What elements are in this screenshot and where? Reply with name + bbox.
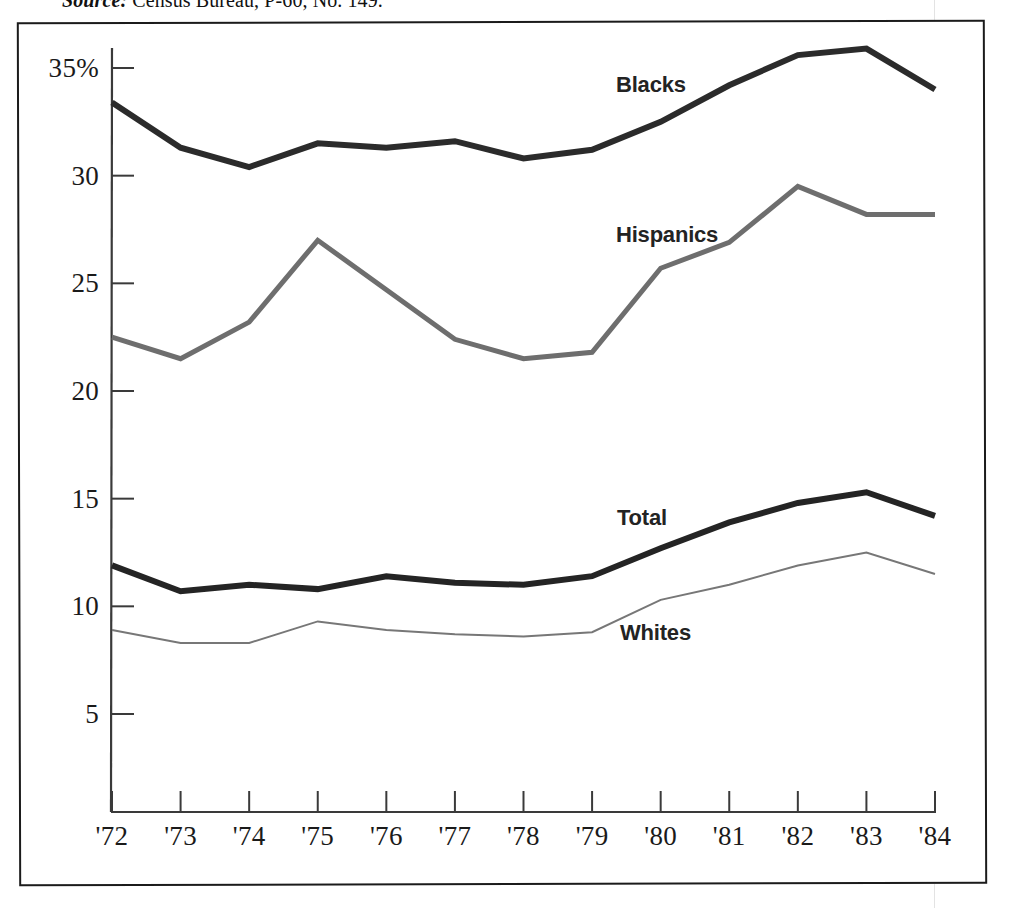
x-tick-label: '80: [626, 821, 696, 852]
chart-canvas: [0, 0, 1012, 908]
series-label-whites: Whites: [620, 620, 691, 646]
y-tick-label: 35%: [19, 53, 99, 84]
x-tick-label: '74: [214, 821, 284, 852]
y-axis-line: [111, 48, 112, 812]
x-tick-label: '84: [900, 821, 970, 852]
x-tick-label: '78: [489, 821, 559, 852]
series-label-blacks: Blacks: [616, 72, 686, 98]
x-tick-label: '76: [351, 821, 421, 852]
x-tick-label: '72: [77, 821, 147, 852]
x-tick-label: '73: [146, 821, 216, 852]
x-tick-label: '83: [831, 821, 901, 852]
series-line-blacks: [112, 49, 935, 167]
x-tick-label: '79: [557, 821, 627, 852]
series-label-total: Total: [617, 505, 667, 531]
line-chart: 35%30252015105 '72'73'74'75'76'77'78'79'…: [0, 0, 1012, 908]
series-label-hispanics: Hispanics: [616, 222, 718, 248]
y-tick-label: 25: [19, 268, 99, 299]
y-tick-label: 30: [19, 160, 99, 191]
x-tick-label: '77: [420, 821, 490, 852]
y-tick-label: 15: [19, 483, 99, 514]
series-line-whites: [112, 553, 935, 643]
y-tick-label: 5: [19, 699, 99, 730]
y-tick-label: 10: [19, 591, 99, 622]
x-tick-label: '82: [763, 821, 833, 852]
series-line-total: [112, 492, 935, 591]
y-tick-label: 20: [19, 376, 99, 407]
x-tick-label: '81: [694, 821, 764, 852]
series-line-hispanics: [112, 186, 935, 358]
x-tick-label: '75: [283, 821, 353, 852]
